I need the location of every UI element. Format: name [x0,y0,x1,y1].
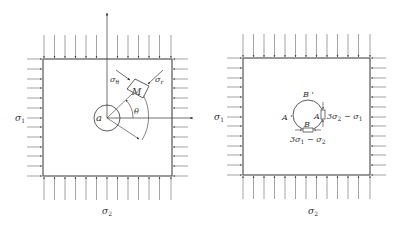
element-a [321,110,325,119]
point-b-label: B [303,120,310,129]
sigma-r-label: σr [155,75,163,85]
theta-label: θ [134,107,139,116]
sigma2-label-right: σ2 [308,206,318,217]
right-load-arrows-right [371,58,386,175]
top-load-arrows-right [243,34,370,57]
sigma1-label-right: σ1 [214,112,224,123]
stress-at-b-label: 3σ1 − σ2 [290,135,326,145]
sigma-theta-label: σθ [110,75,119,85]
right-load-arrows [173,59,188,176]
element-m-label: M [131,87,142,97]
top-load-arrows [44,35,171,58]
right-panel: B ' A ' A B 3σ2 − σ1 3σ1 − σ2 σ1 σ2 [214,34,386,217]
bottom-load-arrows-right [243,176,370,199]
point-a-label: A [313,112,320,121]
point-a-prime-label: A ' [281,113,293,122]
sigma2-label-left: σ2 [102,206,112,217]
sigma1-label-left: σ1 [15,113,25,124]
bottom-load-arrows [44,177,171,200]
stress-at-a-label: 3σ2 − σ1 [327,112,362,122]
radius-label: a [96,112,102,123]
left-load-arrows-right [227,58,242,175]
point-b-prime-label: B ' [302,90,314,99]
sector-arc [140,90,149,140]
left-load-arrows [27,59,42,176]
left-panel: a θ M σθ σr σ1 σ2 [15,13,193,217]
diagram-canvas: a θ M σθ σr σ1 σ2 [0,0,400,229]
radius-arrow [107,118,139,139]
theta-arc [126,100,133,118]
